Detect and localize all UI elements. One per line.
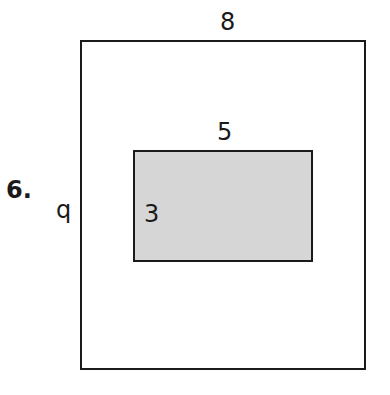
inner-width-label: 5 [217,120,232,144]
outer-width-label: 8 [220,10,235,34]
outer-height-label: q [56,198,71,222]
inner-shaded-rectangle [133,150,313,262]
inner-height-label: 3 [144,202,159,226]
problem-number: 6. [6,178,32,202]
